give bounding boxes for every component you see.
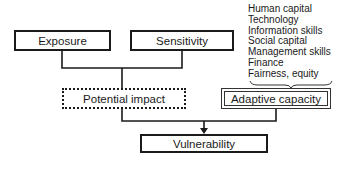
impact-to-vulnerability-connector <box>122 109 276 121</box>
arrow-head-icon <box>200 128 208 134</box>
connector-lines <box>0 0 343 172</box>
curly-brace-icon <box>250 81 332 88</box>
exposure-connector <box>62 51 182 68</box>
